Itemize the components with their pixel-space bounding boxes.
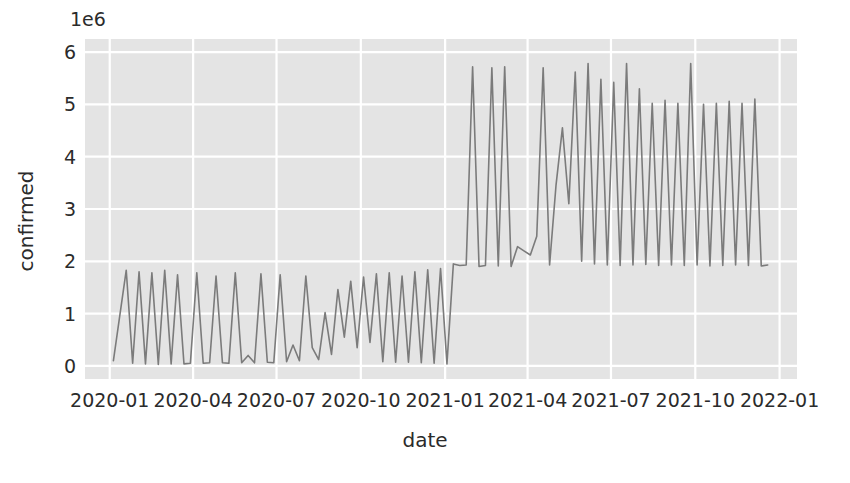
- x-tick-label: 2020-01: [70, 391, 149, 410]
- y-tick-label: 3: [64, 200, 76, 219]
- x-tick-label: 2021-04: [488, 391, 567, 410]
- y-tick-label: 5: [64, 95, 76, 114]
- x-axis-tick-labels: 2020-012020-042020-072020-102021-012021-…: [0, 391, 850, 421]
- y-tick-label: 0: [64, 356, 76, 375]
- x-tick-label: 2022-01: [740, 391, 819, 410]
- x-tick-label: 2021-10: [656, 391, 735, 410]
- x-tick-label: 2021-07: [571, 391, 650, 410]
- y-tick-label: 1: [64, 304, 76, 323]
- x-tick-label: 2020-07: [237, 391, 316, 410]
- y-tick-label: 4: [64, 147, 76, 166]
- chart-figure: 1e6 confirmed 0123456 2020-012020-042020…: [0, 0, 850, 483]
- x-tick-label: 2020-10: [321, 391, 400, 410]
- y-tick-label: 6: [64, 43, 76, 62]
- confirmed-line-series: [85, 39, 797, 379]
- y-tick-label: 2: [64, 252, 76, 271]
- x-axis-title: date: [0, 428, 850, 452]
- x-tick-label: 2020-04: [153, 391, 232, 410]
- x-tick-label: 2021-01: [405, 391, 484, 410]
- plot-area: [85, 39, 797, 379]
